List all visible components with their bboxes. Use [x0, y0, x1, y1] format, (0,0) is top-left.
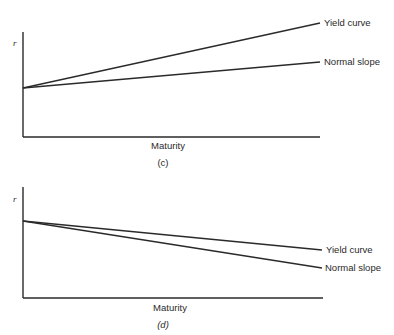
- x-axis-label: Maturity: [153, 302, 187, 313]
- panel-d: r Yield curve Normal slope Maturity (d): [13, 187, 381, 330]
- panel-caption: (c): [157, 157, 168, 168]
- y-axis-label: r: [13, 194, 17, 204]
- x-axis-label: Maturity: [151, 140, 185, 151]
- y-axis-label: r: [13, 38, 17, 48]
- panel-caption: (d): [157, 319, 169, 330]
- normal-slope-line: [23, 62, 320, 88]
- yield-curve-label: Yield curve: [324, 17, 371, 28]
- yield-curve-label: Yield curve: [326, 244, 373, 255]
- yield-curve-line: [23, 23, 320, 88]
- yield-curve-line: [23, 221, 322, 250]
- normal-slope-label: Normal slope: [324, 56, 380, 67]
- yield-curve-diagram: r Yield curve Normal slope Maturity (c) …: [0, 0, 394, 335]
- normal-slope-label: Normal slope: [325, 262, 381, 273]
- normal-slope-line: [23, 221, 322, 268]
- panel-c: r Yield curve Normal slope Maturity (c): [13, 17, 380, 168]
